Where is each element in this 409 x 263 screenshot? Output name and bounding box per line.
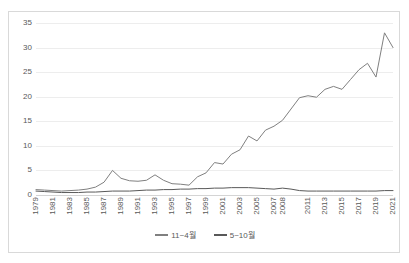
y-axis-tick-label: 25	[23, 68, 32, 76]
chart-container: 05101520253035 1979198119831985198719891…	[8, 11, 400, 253]
y-axis-tick-label: 30	[23, 44, 32, 52]
x-axis-tick-label: 2021	[389, 197, 397, 215]
x-axis-tick-label: 2011	[304, 197, 312, 214]
x-axis-tick-label: 1983	[66, 197, 74, 215]
plot-wrapper: 05101520253035 1979198119831985198719891…	[9, 12, 401, 254]
x-axis-tick-label: 1987	[100, 197, 108, 215]
series-line	[36, 33, 393, 191]
legend-label: 5~10월	[230, 231, 255, 240]
x-axis-tick-label: 2008	[279, 197, 287, 215]
y-axis-tick-label: 35	[23, 19, 32, 27]
y-axis-tick-label: 15	[23, 117, 32, 125]
y-axis-tick-label: 20	[23, 93, 32, 101]
x-axis-tick-label: 2003	[236, 197, 244, 215]
x-axis-tick-label: 1993	[151, 197, 159, 215]
x-axis-tick-label: 1995	[168, 197, 176, 215]
legend-label: 11~4월	[171, 231, 195, 240]
x-axis-tick-label: 2007	[270, 197, 278, 215]
plot-area	[36, 23, 393, 195]
x-axis-tick-label: 1985	[83, 197, 91, 215]
legend-swatch-icon	[155, 234, 168, 236]
x-axis-tick-label: 1981	[49, 197, 57, 215]
legend-item[interactable]: 5~10월	[214, 231, 255, 240]
x-axis-tick-label: 2013	[321, 197, 329, 215]
x-axis-tick-label: 1997	[185, 197, 193, 215]
x-axis-tick-label: 2019	[372, 197, 380, 215]
y-axis-tick-label: 10	[23, 142, 32, 150]
x-axis-tick-label: 2015	[338, 197, 346, 215]
y-axis: 05101520253035	[9, 23, 35, 195]
series-layer	[36, 23, 393, 195]
x-axis-tick-label: 2005	[253, 197, 261, 215]
y-axis-tick-label: 5	[28, 166, 32, 174]
x-axis-tick-label: 2001	[219, 197, 227, 215]
x-axis-tick-label: 1991	[134, 197, 142, 215]
x-axis-tick-label: 1979	[32, 197, 40, 215]
legend-item[interactable]: 11~4월	[155, 231, 195, 240]
legend-swatch-icon	[214, 234, 227, 236]
chart-legend: 11~4월5~10월	[9, 227, 401, 243]
x-axis-tick-label: 1999	[202, 197, 210, 215]
x-axis-tick-label: 1989	[117, 197, 125, 215]
x-axis-tick-label: 2017	[355, 197, 363, 215]
